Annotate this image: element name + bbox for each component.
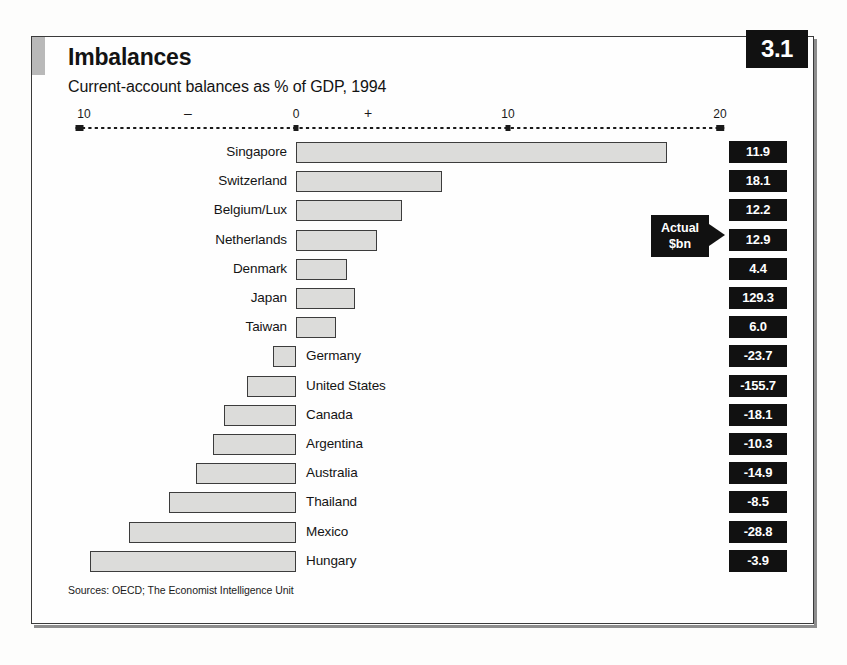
value-badge: -8.5: [729, 491, 787, 513]
chart-row: Denmark4.4: [0, 257, 847, 283]
value-badge: 12.2: [729, 199, 787, 221]
value-badge: -155.7: [729, 375, 787, 397]
bar-category-label: Denmark: [233, 261, 287, 276]
value-badge: 11.9: [729, 141, 787, 163]
callout-line-2: $bn: [669, 237, 691, 251]
chart-row: Switzerland18.1: [0, 169, 847, 195]
source-note: Sources: OECD; The Economist Intelligenc…: [68, 584, 294, 596]
value-badge: -10.3: [729, 433, 787, 455]
bar: [296, 288, 355, 309]
chart-row: Canada-18.1: [0, 403, 847, 429]
chart-row: Australia-14.9: [0, 461, 847, 487]
chart-row: Argentina-10.3: [0, 432, 847, 458]
bar-category-label: Mexico: [306, 524, 348, 539]
bar-category-label: Argentina: [306, 436, 363, 451]
bar-category-label: United States: [306, 378, 386, 393]
bar: [213, 434, 296, 455]
bar: [296, 259, 347, 280]
bar-category-label: Japan: [251, 290, 287, 305]
bar-category-label: Singapore: [226, 144, 287, 159]
value-badge: -23.7: [729, 345, 787, 367]
value-badge: 129.3: [729, 287, 787, 309]
value-badge: -14.9: [729, 462, 787, 484]
bar: [224, 405, 296, 426]
chart-row: Mexico-28.8: [0, 520, 847, 546]
bar: [129, 522, 296, 543]
bar: [296, 142, 667, 163]
value-badge: 18.1: [729, 170, 787, 192]
bar-category-label: Netherlands: [215, 232, 287, 247]
bar-category-label: Belgium/Lux: [214, 202, 287, 217]
bar: [273, 346, 296, 367]
bar-category-label: Switzerland: [218, 173, 287, 188]
bar-category-label: Germany: [306, 348, 361, 363]
chart-row: Germany-23.7: [0, 344, 847, 370]
bar: [196, 463, 296, 484]
chart-row: United States-155.7: [0, 374, 847, 400]
bar-category-label: Canada: [306, 407, 353, 422]
value-badge: -3.9: [729, 550, 787, 572]
chart-row: Thailand-8.5: [0, 490, 847, 516]
callout-line-1: Actual: [661, 221, 699, 235]
chart-row: Belgium/Lux12.2: [0, 198, 847, 224]
bar: [296, 317, 336, 338]
bar-category-label: Australia: [306, 465, 358, 480]
chart-row: Singapore11.9: [0, 140, 847, 166]
actual-bn-callout: Actual $bn: [651, 215, 709, 257]
bar: [169, 492, 296, 513]
bar: [296, 200, 402, 221]
bar: [247, 376, 296, 397]
bar-category-label: Taiwan: [246, 319, 287, 334]
bar: [296, 171, 442, 192]
bar-category-label: Hungary: [306, 553, 356, 568]
value-badge: 12.9: [729, 229, 787, 251]
bar-chart-plot: Singapore11.9Switzerland18.1Belgium/Lux1…: [0, 0, 847, 665]
value-badge: 6.0: [729, 316, 787, 338]
chart-row: Japan129.3: [0, 286, 847, 312]
value-badge: -18.1: [729, 404, 787, 426]
bar: [90, 551, 296, 572]
bar-category-label: Thailand: [306, 494, 357, 509]
chart-row: Hungary-3.9: [0, 549, 847, 575]
chart-row: Taiwan6.0: [0, 315, 847, 341]
bar: [296, 230, 377, 251]
value-badge: 4.4: [729, 258, 787, 280]
value-badge: -28.8: [729, 521, 787, 543]
callout-arrow-icon: [709, 224, 725, 246]
page-canvas: 3.1 Imbalances Current-account balances …: [0, 0, 847, 665]
